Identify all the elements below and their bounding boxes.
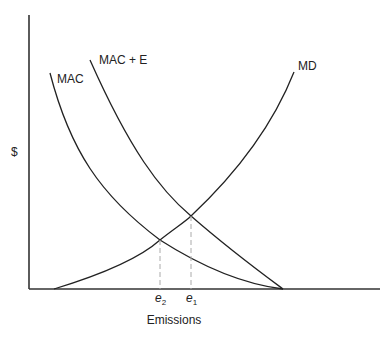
md-curve	[54, 72, 294, 289]
mac-label: MAC	[57, 72, 84, 86]
mac-e-curve	[90, 60, 283, 289]
md-label: MD	[298, 59, 317, 73]
y-axis-label: $	[11, 145, 18, 159]
abatement-diagram: MAC MAC + E MD $ e2 e1 Emissions	[0, 0, 392, 337]
e2-label: e2	[155, 291, 167, 307]
e1-label: e1	[186, 291, 198, 307]
mac-e-label: MAC + E	[99, 53, 147, 67]
mac-curve	[50, 73, 283, 289]
x-axis-label: Emissions	[147, 313, 202, 327]
